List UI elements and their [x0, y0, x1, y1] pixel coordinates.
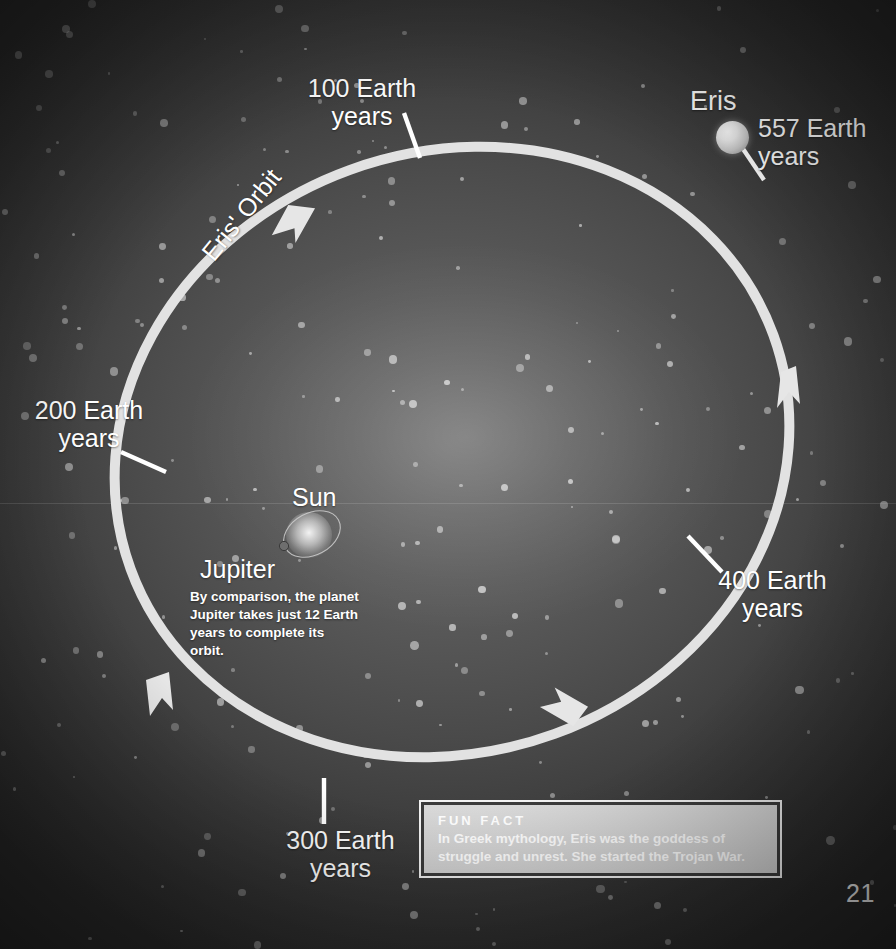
- page-root: Eris 557 Earth years 100 Earth years 200…: [0, 0, 896, 949]
- fun-fact-body: In Greek mythology, Eris was the goddess…: [438, 830, 763, 865]
- jupiter-label: Jupiter: [200, 555, 275, 583]
- sun-label: Sun: [292, 483, 336, 511]
- tick-label-200: 200 Earth years: [14, 396, 164, 452]
- tick-label-100: 100 Earth years: [282, 74, 442, 130]
- eris-label: Eris: [690, 86, 737, 116]
- fun-fact-box: FUN FACT In Greek mythology, Eris was th…: [419, 800, 782, 878]
- jupiter-body: [279, 541, 288, 550]
- fun-fact-inner: FUN FACT In Greek mythology, Eris was th…: [424, 805, 777, 873]
- page-number: 21: [846, 879, 875, 908]
- eris-period-label: 557 Earth years: [758, 114, 866, 170]
- fun-fact-title: FUN FACT: [438, 814, 763, 828]
- arrow-bottom-left: [146, 672, 173, 716]
- tick-200: [121, 452, 166, 472]
- tick-label-300: 300 Earth years: [258, 826, 423, 882]
- eris-body: [716, 121, 749, 154]
- orbit-ellipse: [28, 53, 876, 851]
- tick-label-400: 400 Earth years: [690, 566, 855, 622]
- jupiter-orbit-ellipse: [276, 501, 349, 566]
- jupiter-note-text: By comparison, the planet Jupiter takes …: [190, 588, 360, 660]
